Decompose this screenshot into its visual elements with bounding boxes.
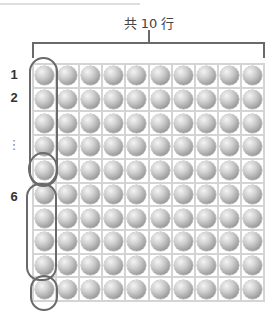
oval-row-10 (31, 276, 57, 310)
grouping-overlay (0, 0, 278, 317)
oval-rows-6-9 (27, 184, 56, 280)
oval-rows-1-5 (30, 58, 57, 186)
circle-row-5 (29, 153, 57, 185)
